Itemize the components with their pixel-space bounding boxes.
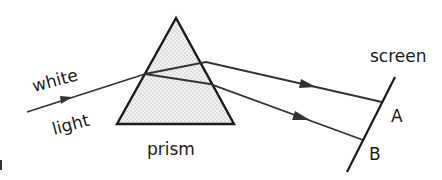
lower-ray-arrow-icon [292, 111, 310, 120]
label-point-b: B [369, 144, 381, 164]
prism-triangle [117, 18, 234, 124]
label-light: light [50, 110, 92, 139]
label-screen: screen [370, 46, 427, 66]
incident-ray-arrow-icon [60, 96, 72, 104]
label-point-a: A [391, 106, 403, 126]
upper-ray-arrow-icon [299, 79, 316, 88]
label-white: white [30, 65, 80, 96]
prism-dispersion-diagram: white light prism screen A B [0, 0, 442, 180]
label-prism: prism [147, 139, 195, 159]
edge-mark [0, 160, 2, 170]
